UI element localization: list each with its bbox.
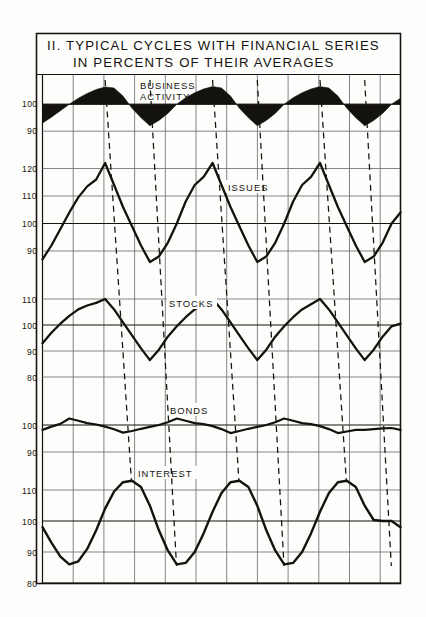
label-stocks: STOCKS bbox=[169, 298, 213, 309]
ytick-ba-100: 100 bbox=[22, 99, 38, 109]
ytick-stk-90: 90 bbox=[27, 347, 37, 357]
chart-title-line1: II. TYPICAL CYCLES WITH FINANCIAL SERIES bbox=[47, 38, 380, 53]
ytick-iss-90: 90 bbox=[27, 246, 37, 256]
ytick-int-100: 100 bbox=[22, 517, 38, 527]
ytick-int-80: 80 bbox=[27, 579, 37, 589]
ytick-bnd-100: 100 bbox=[22, 421, 38, 431]
ytick-stk-100: 100 bbox=[22, 321, 38, 331]
label-business-activity-line2: ACTIVITY bbox=[140, 91, 190, 102]
chart-title-line2: IN PERCENTS OF THEIR AVERAGES bbox=[73, 55, 335, 70]
chart-svg: II. TYPICAL CYCLES WITH FINANCIAL SERIES… bbox=[0, 0, 426, 617]
label-interest: INTEREST bbox=[138, 468, 192, 479]
chart-figure: II. TYPICAL CYCLES WITH FINANCIAL SERIES… bbox=[0, 0, 426, 617]
ytick-int-110: 110 bbox=[22, 486, 37, 496]
label-business-activity-line1: BUSINESS bbox=[140, 80, 195, 91]
ytick-stk-110: 110 bbox=[22, 295, 37, 305]
ytick-iss-120: 120 bbox=[22, 164, 38, 174]
ytick-int-90: 90 bbox=[27, 548, 37, 558]
label-bonds: BONDS bbox=[170, 405, 208, 416]
ytick-iss-100: 100 bbox=[22, 219, 38, 229]
ytick-ba-90: 90 bbox=[27, 126, 37, 136]
label-issues: ISSUES bbox=[228, 182, 268, 193]
ytick-bnd-90: 90 bbox=[27, 448, 37, 458]
ytick-iss-110: 110 bbox=[22, 191, 37, 201]
ytick-stk-80: 80 bbox=[27, 373, 37, 383]
